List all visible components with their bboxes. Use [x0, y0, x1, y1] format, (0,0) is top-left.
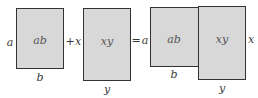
rectangle-ab-side-label: a	[7, 37, 14, 48]
plus-operator: +	[65, 36, 74, 47]
rectangle-ab-bottom-label: b	[36, 72, 43, 83]
result-xy-bottom-label: y	[219, 83, 225, 94]
equals-operator: =	[131, 35, 140, 46]
rectangle-ab-area-label: ab	[33, 35, 47, 46]
area-model-diagram: ab a b + x xy y = a ab b xy x y	[0, 0, 258, 98]
result-ab-area-label: ab	[167, 34, 181, 45]
rectangle-xy-bottom-label: y	[104, 84, 110, 95]
rectangle-xy-side-label: x	[75, 36, 81, 47]
result-xy-side-label: x	[248, 34, 254, 45]
result-xy-area-label: xy	[216, 34, 228, 45]
rectangle-xy-area-label: xy	[101, 36, 113, 47]
result-ab-bottom-label: b	[170, 69, 177, 80]
result-left-side-label: a	[142, 35, 149, 46]
